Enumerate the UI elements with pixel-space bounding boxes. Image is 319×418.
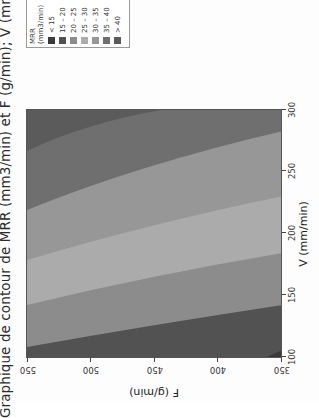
- x-tick-label: 300: [287, 102, 297, 118]
- legend-swatch: [70, 37, 77, 44]
- x-tick-label: 150: [287, 287, 297, 303]
- legend-label: > 40: [114, 16, 122, 33]
- legend-title: MRR (mm3/min): [29, 5, 45, 44]
- legend-label: 30 – 35: [92, 7, 100, 33]
- x-tick-label: 100: [287, 349, 297, 365]
- x-tick-mark: [282, 170, 286, 171]
- legend-swatch: [103, 37, 110, 44]
- y-tick-label: 550: [20, 365, 36, 375]
- legend-label: 35 – 40: [103, 7, 111, 33]
- legend-item: 25 – 30: [80, 7, 89, 44]
- legend-item: 20 – 25: [69, 7, 78, 44]
- y-tick-label: 350: [274, 365, 290, 375]
- legend-item: 35 – 40: [102, 7, 111, 44]
- x-tick-mark: [282, 232, 286, 233]
- legend-title-line1: MRR: [29, 5, 37, 44]
- x-tick-label: 250: [287, 163, 297, 179]
- y-tick-mark: [217, 358, 218, 362]
- y-tick-label: 450: [147, 365, 163, 375]
- x-tick-mark: [282, 356, 286, 357]
- y-tick-label: 500: [83, 365, 99, 375]
- legend-item: < 15: [47, 16, 56, 44]
- y-tick-label: 400: [210, 365, 226, 375]
- legend-item: 15 – 20: [58, 7, 67, 44]
- y-axis-label: F (g/min): [129, 386, 179, 399]
- legend-label: < 15: [48, 16, 56, 33]
- y-tick-mark: [90, 358, 91, 362]
- legend-label: 25 – 30: [81, 7, 89, 33]
- legend-label: 20 – 25: [70, 7, 78, 33]
- contour-plot-area: [26, 109, 282, 358]
- x-tick-mark: [282, 294, 286, 295]
- legend-label: 15 – 20: [59, 7, 67, 33]
- legend-title-line2: (mm3/min): [37, 5, 45, 44]
- legend-swatch: [48, 37, 55, 44]
- x-tick-label: 200: [287, 225, 297, 241]
- y-tick-mark: [281, 358, 282, 362]
- legend-item: > 40: [113, 16, 122, 44]
- y-tick-mark: [154, 358, 155, 362]
- x-axis-label: V (mm/min): [297, 201, 310, 266]
- legend-swatch: [114, 37, 121, 44]
- contour-bands: [27, 109, 282, 357]
- legend-swatch: [59, 37, 66, 44]
- legend: MRR (mm3/min) < 15 15 – 20 20 – 25 25 – …: [26, 0, 130, 48]
- x-tick-mark: [282, 109, 286, 110]
- legend-item: 30 – 35: [91, 7, 100, 44]
- legend-swatch: [92, 37, 99, 44]
- y-tick-mark: [27, 358, 28, 362]
- legend-swatch: [81, 37, 88, 44]
- chart-title: Graphique de contour de MRR (mm3/min) et…: [0, 0, 13, 418]
